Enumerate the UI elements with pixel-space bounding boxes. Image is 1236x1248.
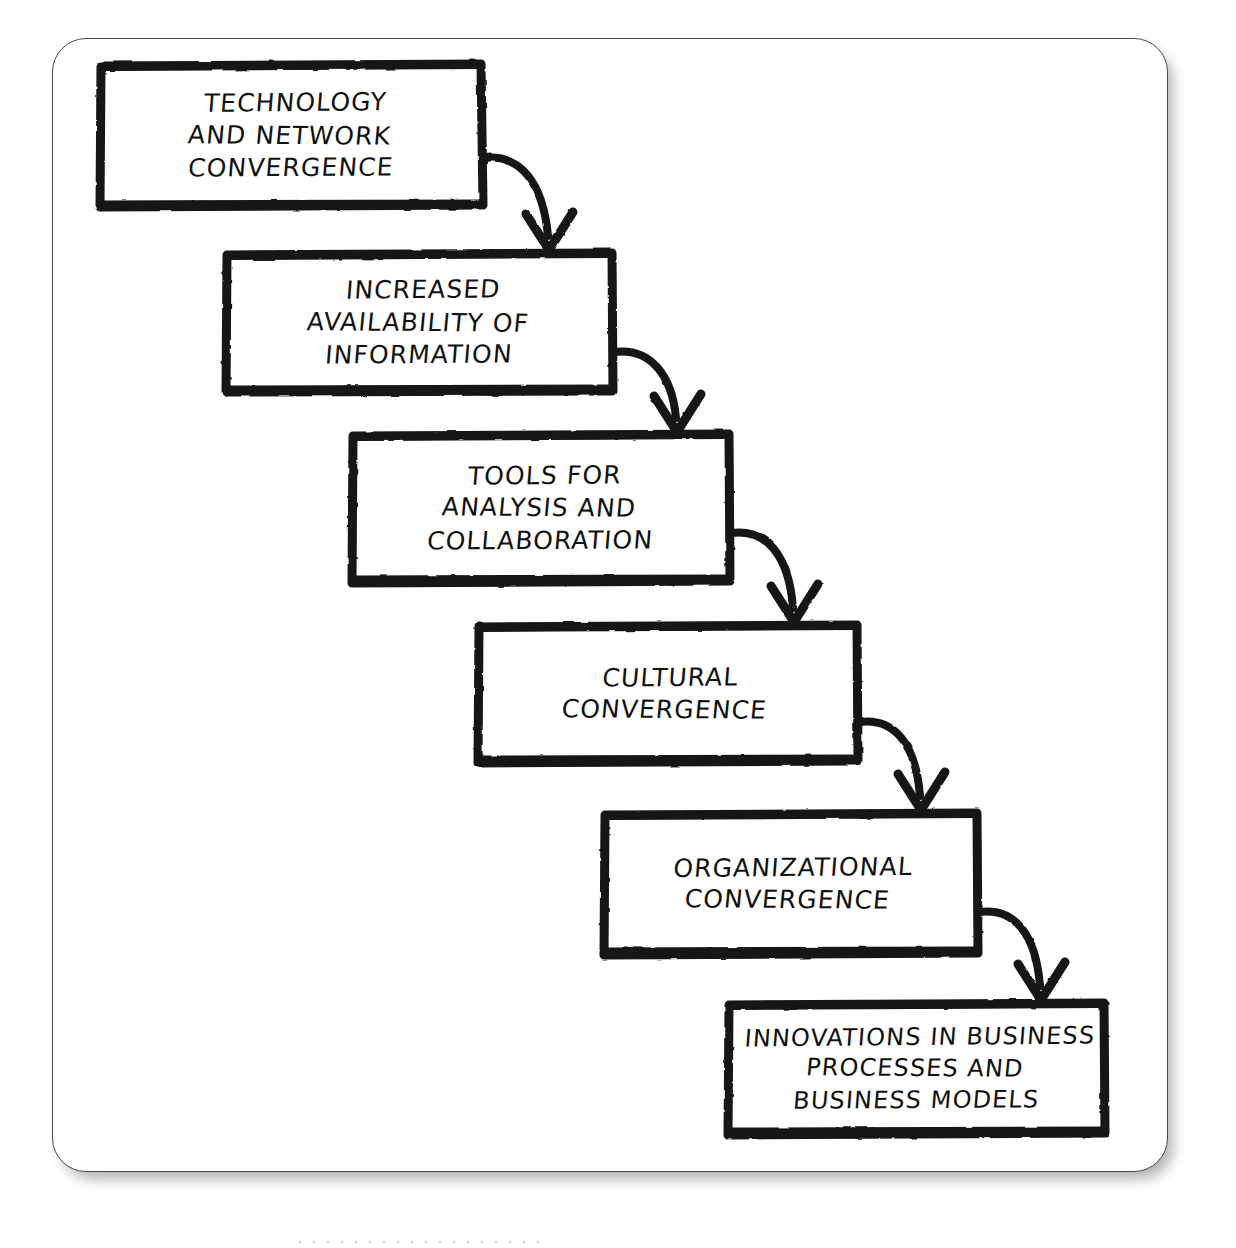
node-3-line-1: Tools for	[467, 459, 623, 493]
node-5-line-1: Organizational	[672, 850, 914, 885]
bottom-dotted-artifact	[293, 1240, 543, 1244]
node-1-line-3: Convergence	[187, 152, 395, 186]
node-4-line-1: Cultural	[601, 661, 740, 695]
node-6-line-1: Innovations in Business	[744, 1021, 1097, 1055]
diagram-canvas: Technology and Network Convergence Incre…	[0, 0, 1236, 1248]
node-6-label: Innovations in Business Processes and Bu…	[722, 1003, 1111, 1135]
node-3-line-2: Analysis and	[440, 492, 637, 526]
node-4-label: Cultural Convergence	[472, 625, 864, 763]
node-2-line-2: Availability of	[305, 306, 530, 340]
node-6-line-2: Processes and	[804, 1053, 1024, 1086]
node-6-line-3: Business Models	[791, 1084, 1040, 1116]
node-3-line-3: Collaboration	[426, 524, 655, 558]
node-1-line-2: and Network	[187, 119, 393, 153]
outer-frame	[52, 38, 1168, 1172]
node-2-line-1: Increased	[345, 274, 502, 308]
node-4-line-2: Convergence	[560, 693, 768, 727]
node-1-line-1: Technology	[203, 86, 389, 120]
node-3-label: Tools for Analysis and Collaboration	[345, 434, 736, 583]
node-2-label: Increased Availability of Information	[220, 253, 619, 393]
node-5-line-2: Convergence	[683, 883, 891, 917]
node-5-label: Organizational Convergence	[598, 813, 984, 955]
node-1-label: Technology and Network Convergence	[94, 64, 490, 208]
node-2-line-3: Information	[324, 339, 514, 372]
